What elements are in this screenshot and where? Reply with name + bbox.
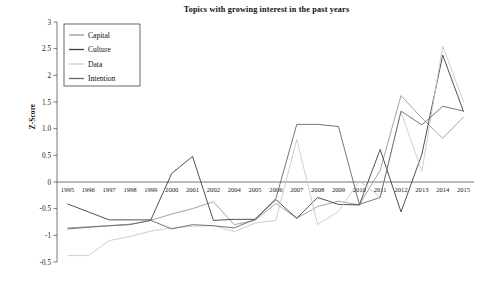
legend-label-intention[interactable]: Intention bbox=[88, 74, 116, 83]
line-chart-plot: 32.521.51.00.50-0.5-1-0.5 19951996199719… bbox=[0, 0, 485, 285]
x-tick-label: 2009 bbox=[332, 186, 346, 193]
x-tick-label: 2007 bbox=[290, 186, 304, 193]
legend-label-culture[interactable]: Culture bbox=[88, 45, 111, 54]
x-tick-label: 1999 bbox=[144, 186, 158, 193]
y-tick-label: -0.5 bbox=[40, 205, 52, 213]
y-tick-label: -1 bbox=[45, 232, 51, 240]
series-line-intention bbox=[67, 106, 463, 229]
x-tick-label: 2015 bbox=[457, 186, 471, 193]
x-tick-label: 2001 bbox=[186, 186, 199, 193]
y-tick-label: 1.5 bbox=[42, 99, 51, 107]
x-tick-label: 2004 bbox=[228, 186, 242, 193]
x-tick-label: 2013 bbox=[415, 186, 429, 193]
y-axis-label: Z-Score bbox=[28, 87, 37, 147]
x-tick-label: 2006 bbox=[269, 186, 283, 193]
chart-legend[interactable]: CapitalCultureDataIntention bbox=[64, 24, 140, 86]
chart-figure: Topics with growing interest in the past… bbox=[0, 0, 485, 285]
y-tick-label: 2.5 bbox=[42, 45, 51, 53]
x-tick-label: 2012 bbox=[394, 186, 407, 193]
x-tick-label: 2008 bbox=[311, 186, 325, 193]
x-tick-label: 1995 bbox=[61, 186, 75, 193]
x-tick-label: 1996 bbox=[82, 186, 96, 193]
series-line-capital bbox=[67, 96, 463, 228]
x-tick-label: 2000 bbox=[165, 186, 179, 193]
y-tick-label: 3 bbox=[47, 19, 51, 27]
y-tick-label: 2 bbox=[47, 72, 51, 80]
chart-title: Topics with growing interest in the past… bbox=[0, 5, 485, 14]
legend-label-data[interactable]: Data bbox=[88, 60, 103, 69]
x-tick-label: 2002 bbox=[207, 186, 220, 193]
x-tick-label: 2011 bbox=[374, 186, 387, 193]
x-tick-label: 2005 bbox=[248, 186, 262, 193]
y-tick-label: 0 bbox=[47, 179, 51, 187]
x-tick-label: 1997 bbox=[103, 186, 117, 193]
x-tick-label: 1998 bbox=[123, 186, 137, 193]
y-tick-label: -0.5 bbox=[40, 259, 52, 267]
y-tick-label: 0.5 bbox=[42, 152, 51, 160]
y-tick-label: 1.0 bbox=[42, 125, 51, 133]
legend-label-capital[interactable]: Capital bbox=[88, 31, 110, 40]
y-axis: 32.521.51.00.50-0.5-1-0.5 bbox=[40, 19, 57, 267]
x-tick-label: 2014 bbox=[436, 186, 450, 193]
